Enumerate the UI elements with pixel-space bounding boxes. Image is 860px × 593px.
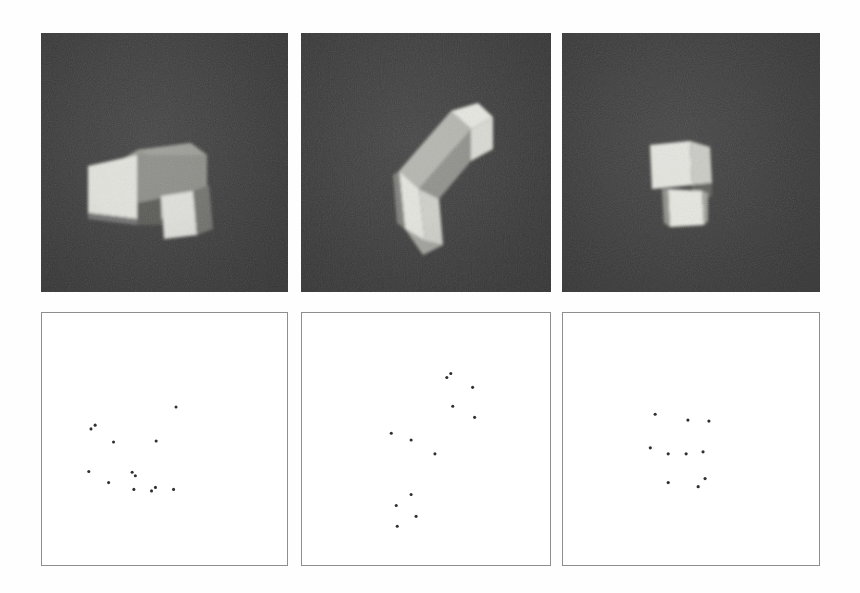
feature-point <box>473 416 476 419</box>
feature-point <box>172 488 175 491</box>
feature-point <box>654 413 657 416</box>
feature-point <box>667 452 670 455</box>
feature-point <box>107 481 110 484</box>
points-panel-3 <box>562 312 820 566</box>
feature-point <box>433 452 436 455</box>
feature-point <box>87 470 90 473</box>
feature-point <box>94 424 97 427</box>
feature-point <box>449 372 452 375</box>
render-panel-3 <box>562 33 820 292</box>
figure-root <box>0 0 860 593</box>
feature-point <box>89 427 92 430</box>
feature-point <box>445 376 448 379</box>
feature-point <box>703 477 706 480</box>
feature-point <box>649 446 652 449</box>
feature-point <box>150 489 153 492</box>
feature-point <box>395 504 398 507</box>
feature-point <box>132 488 135 491</box>
points-panel-1 <box>41 312 288 566</box>
feature-point <box>686 419 689 422</box>
render-panel-1 <box>41 33 288 292</box>
render-panel-2 <box>301 33 551 292</box>
points-panel-2 <box>301 312 551 566</box>
feature-point <box>112 440 115 443</box>
feature-point <box>415 515 418 518</box>
feature-point-plot-2 <box>302 313 550 565</box>
feature-point <box>451 405 454 408</box>
render-object-2 <box>301 33 551 292</box>
feature-point <box>471 386 474 389</box>
feature-point <box>131 471 134 474</box>
feature-point-plot-3 <box>563 313 819 565</box>
feature-point <box>154 486 157 489</box>
feature-point <box>174 405 177 408</box>
feature-point <box>697 485 700 488</box>
feature-point-plot-1 <box>42 313 287 565</box>
feature-point <box>155 439 158 442</box>
feature-point <box>410 438 413 441</box>
feature-point <box>396 525 399 528</box>
render-object-1 <box>41 33 288 292</box>
render-object-3 <box>562 33 820 292</box>
feature-point <box>685 452 688 455</box>
feature-point <box>701 450 704 453</box>
feature-point <box>667 481 670 484</box>
feature-point <box>707 420 710 423</box>
feature-point <box>410 493 413 496</box>
feature-point <box>390 432 393 435</box>
feature-point <box>134 474 137 477</box>
